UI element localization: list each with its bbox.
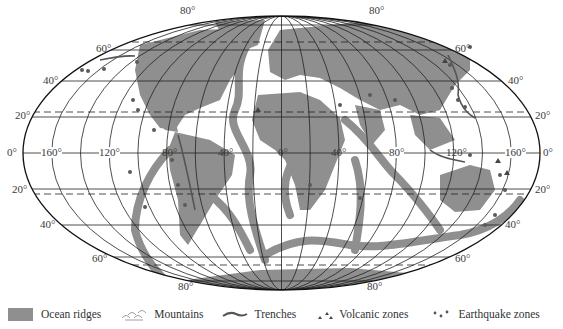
lon-label-0: 0°	[278, 147, 288, 158]
legend-item-mountains: Mountains	[121, 307, 203, 321]
lat-label-80s-left: 80°	[178, 281, 193, 292]
legend-label: Ocean ridges	[41, 308, 101, 320]
lat-label-20s-left: 20°	[12, 184, 27, 195]
lon-label-80w: 80°	[162, 147, 177, 158]
legend-item-volcanic-zones: Volcanic zones	[316, 308, 408, 320]
legend-label: Earthquake zones	[458, 308, 539, 320]
lon-label-40e: 40°	[331, 147, 346, 158]
lat-label-20n-left: 20°	[15, 110, 30, 121]
ocean-ridge-swatch-icon	[8, 308, 33, 321]
southeast-asia	[410, 115, 455, 150]
lon-label-120e: 120°	[446, 147, 467, 158]
legend-label: Volcanic zones	[339, 308, 408, 320]
lat-label-60s-left: 60°	[92, 253, 107, 264]
lon-label-120w: 120°	[99, 147, 120, 158]
lat-label-eq-right: 0°	[543, 147, 553, 158]
lat-label-40n-left: 40°	[43, 75, 58, 86]
lat-label-60n-right: 60°	[455, 43, 470, 54]
lat-label-20s-right: 20°	[535, 184, 550, 195]
lat-label-80s-right: 80°	[367, 281, 382, 292]
legend-item-earthquake-zones: Earthquake zones	[432, 308, 539, 320]
legend-item-ocean-ridges: Ocean ridges	[0, 308, 101, 321]
lon-label-80e: 80°	[389, 147, 404, 158]
legend-label: Mountains	[154, 308, 203, 320]
lat-label-40s-left: 40°	[40, 219, 55, 230]
lon-label-160w: 160°	[41, 147, 62, 158]
lat-label-60s-right: 60°	[455, 253, 470, 264]
lon-label-160e: 160°	[505, 147, 526, 158]
triangles-icon	[316, 308, 334, 320]
lat-label-20n-right: 20°	[535, 110, 550, 121]
legend-item-trenches: Trenches	[222, 308, 297, 320]
wavy-line-icon	[222, 309, 248, 319]
lat-label-eq-left: 0°	[7, 147, 17, 158]
lat-label-60n-left: 60°	[96, 43, 111, 54]
legend-label: Trenches	[255, 308, 297, 320]
legend: Ocean ridges Mountains Trenches Volcanic…	[0, 303, 563, 325]
lat-label-40s-right: 40°	[505, 219, 520, 230]
dots-icon	[432, 308, 450, 320]
mountain-hatch-icon	[121, 307, 147, 321]
lon-label-40w: 40°	[218, 147, 233, 158]
lat-label-80n-left: 80°	[180, 5, 195, 16]
lat-label-40n-right: 40°	[508, 75, 523, 86]
lat-label-80n-right: 80°	[369, 5, 384, 16]
